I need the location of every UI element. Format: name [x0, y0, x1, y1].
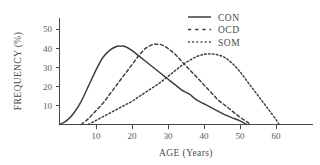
x-tick-label-60: 60	[272, 131, 282, 141]
y-axis-ticks	[56, 29, 60, 105]
frequency-by-age-chart: 10 20 30 40 50 FREQUENCY (%) 10 20 30	[0, 0, 320, 165]
series-line-ocd	[81, 44, 250, 124]
legend: CON OCD SOM	[188, 13, 240, 48]
x-tick-label-40: 40	[200, 131, 210, 141]
x-axis-ticks	[96, 125, 276, 129]
y-tick-label-20: 20	[43, 82, 53, 92]
x-tick-label-30: 30	[164, 131, 174, 141]
y-tick-label-30: 30	[43, 63, 53, 73]
series-line-con	[60, 46, 247, 125]
y-tick-label-10: 10	[43, 101, 53, 111]
x-tick-label-20: 20	[128, 131, 138, 141]
y-axis-group: 10 20 30 40 50 FREQUENCY (%)	[13, 18, 60, 125]
x-axis-title: AGE (Years)	[159, 148, 213, 159]
x-tick-label-50: 50	[236, 131, 246, 141]
legend-label-con: CON	[218, 13, 240, 23]
y-axis-title: FREQUENCY (%)	[13, 32, 24, 110]
x-axis-tick-labels: 10 20 30 40 50 60	[92, 131, 282, 141]
series-curves	[60, 44, 280, 124]
chart-plot-area: 10 20 30 40 50 FREQUENCY (%) 10 20 30	[0, 0, 320, 165]
series-line-som	[88, 54, 279, 125]
x-tick-label-10: 10	[92, 131, 102, 141]
y-axis-tick-labels: 10 20 30 40 50	[43, 24, 53, 110]
legend-label-som: SOM	[218, 38, 240, 48]
y-tick-label-50: 50	[43, 24, 53, 34]
y-tick-label-40: 40	[43, 44, 53, 54]
legend-label-ocd: OCD	[218, 25, 240, 35]
x-axis-group: 10 20 30 40 50 60 AGE (Years)	[60, 125, 314, 160]
